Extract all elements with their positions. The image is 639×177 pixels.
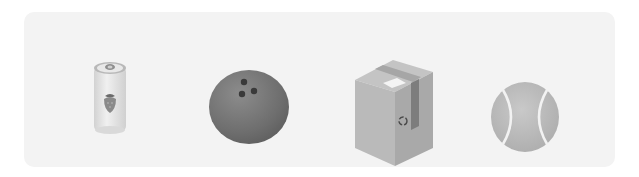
bowling-ball-item[interactable] xyxy=(207,69,291,145)
tennis-ball-icon xyxy=(489,80,561,154)
soda-can-item[interactable] xyxy=(92,61,128,135)
cardboard-box-item[interactable] xyxy=(353,56,447,168)
bowling-ball-icon xyxy=(207,69,291,145)
cardboard-box-icon xyxy=(353,56,447,168)
strawberry-soda-can-icon xyxy=(92,61,128,135)
object-panel xyxy=(24,12,615,167)
tennis-ball-item[interactable] xyxy=(489,80,561,154)
